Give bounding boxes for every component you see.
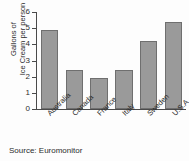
y-axis-tick (32, 93, 36, 94)
y-axis-tick-label: 6 (16, 8, 30, 16)
x-axis-labels: AustraliaCanadaFranceItalySwedenU.S.A (36, 110, 186, 143)
y-axis-tick-label: 2 (16, 73, 30, 81)
y-axis-tick (32, 44, 36, 45)
y-axis-tick (32, 28, 36, 29)
y-axis-tick-label: 0 (16, 105, 30, 113)
bar-chart-figure: Gallons of Ice Cream per person 0123456 … (0, 0, 189, 161)
y-axis-tick-label: 4 (16, 40, 30, 48)
bar (41, 30, 58, 109)
y-axis-tick (32, 12, 36, 13)
source-caption: Source: Euromonitor (9, 146, 82, 156)
y-axis-tick-label: 5 (16, 24, 30, 32)
y-axis-tick (32, 61, 36, 62)
y-axis-tick-label: 1 (16, 89, 30, 97)
y-axis-tick-label: 3 (16, 57, 30, 65)
bar (140, 41, 157, 109)
y-axis-tick (32, 77, 36, 78)
